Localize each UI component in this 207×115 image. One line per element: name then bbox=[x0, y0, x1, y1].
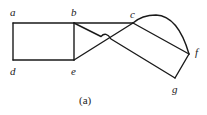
node-label-g: g bbox=[172, 83, 178, 95]
node-label-a: a bbox=[10, 6, 16, 18]
node-label-d: d bbox=[10, 65, 16, 77]
node-label-c: c bbox=[130, 8, 135, 20]
node-label-b: b bbox=[71, 6, 77, 18]
node-label-e: e bbox=[71, 65, 76, 77]
edge-c-f bbox=[133, 23, 189, 54]
figure-caption: (a) bbox=[79, 94, 92, 107]
edge-f-g bbox=[175, 54, 189, 78]
graph-diagram: a b c d e f g (a) bbox=[0, 0, 207, 115]
node-label-f: f bbox=[195, 46, 200, 58]
edge-c-f-arc bbox=[133, 15, 189, 54]
edge-e-c bbox=[74, 23, 133, 60]
